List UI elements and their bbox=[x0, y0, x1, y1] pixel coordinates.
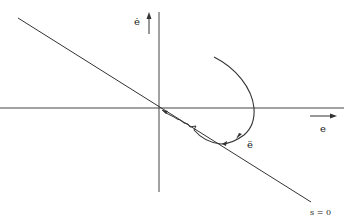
trajectory-label: ë bbox=[247, 139, 253, 150]
horizontal-axis-arrow-icon bbox=[310, 114, 337, 119]
sliding-line bbox=[18, 18, 311, 202]
vertical-axis-label: ė bbox=[134, 16, 140, 27]
sliding-line-label: s = 0 bbox=[310, 208, 331, 217]
sliding-trajectory bbox=[162, 110, 196, 130]
reaching-trajectory bbox=[194, 57, 254, 144]
horizontal-axis-label: e bbox=[320, 123, 326, 134]
vertical-axis-arrow-icon bbox=[147, 12, 152, 34]
phase-plane-diagram: ė e ë s = 0 bbox=[0, 0, 344, 219]
